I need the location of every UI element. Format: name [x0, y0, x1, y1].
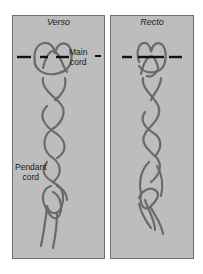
verso-knot-drawing: [13, 16, 106, 260]
main-cord-label-line2: cord: [69, 57, 87, 67]
main-cord-label-line1: Main: [69, 47, 87, 57]
main-cord-label: Main cord: [69, 47, 87, 67]
verso-panel: Verso Main cord Pendant cord: [12, 15, 105, 259]
main-cord-dash: [95, 55, 101, 57]
pendant-cord-label: Pendant cord: [15, 162, 47, 182]
recto-panel: Recto: [110, 15, 194, 259]
recto-knot-drawing: [111, 16, 195, 260]
pendant-cord-label-line2: cord: [15, 172, 47, 182]
pendant-cord-label-line1: Pendant: [15, 162, 47, 172]
